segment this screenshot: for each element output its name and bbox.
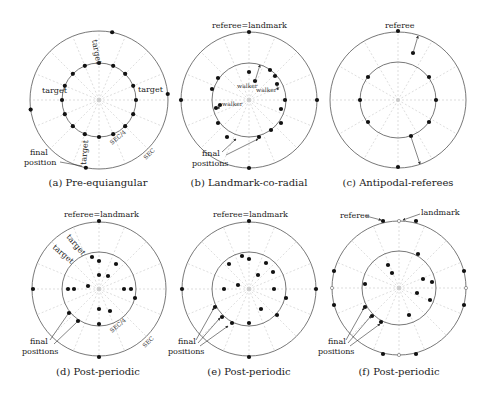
final-pointer-1	[222, 139, 236, 152]
robot-dot	[268, 68, 272, 72]
robot-dot	[390, 271, 394, 275]
final-pointer-2	[54, 322, 77, 344]
robot-dot	[227, 262, 231, 266]
robot-dot	[247, 219, 251, 223]
label-final: final	[328, 337, 346, 346]
robot-dot	[222, 287, 226, 291]
robot-dot	[379, 320, 383, 324]
radial-guides	[330, 32, 466, 168]
robot-dot	[247, 30, 251, 34]
robot-dot	[66, 287, 70, 291]
label-final: final	[30, 148, 48, 157]
radial-guides	[182, 222, 316, 356]
walker-arrow-1	[255, 65, 260, 81]
label-positions: positions	[318, 347, 354, 356]
walker-arrow-2	[277, 86, 278, 90]
robot-dot	[381, 352, 385, 356]
robot-dot	[108, 309, 112, 313]
robot-dot	[247, 70, 251, 74]
robot-dot	[240, 254, 244, 258]
robot-dot	[71, 72, 75, 76]
robot-dot	[71, 124, 75, 128]
robot-dot	[29, 108, 33, 112]
robot-dot	[166, 92, 170, 96]
robot-dot	[414, 219, 418, 223]
robot-dot	[123, 72, 127, 76]
panel-f: referee landmark final positions (f) Pos…	[318, 208, 468, 377]
robot-dot	[256, 273, 260, 277]
referee-arrow-bottom	[411, 137, 420, 164]
label-referee: referee	[385, 21, 415, 30]
robot-dot	[123, 124, 127, 128]
radial-guides	[32, 222, 166, 356]
label-final: final	[30, 337, 48, 346]
robot-dot	[60, 98, 64, 102]
label-final: final	[178, 337, 196, 346]
caption-a: (a) Pre-equiangular	[49, 177, 148, 188]
robot-dot	[230, 321, 234, 325]
robot-dot	[370, 314, 374, 318]
robot-dot	[247, 257, 251, 261]
robot-dot	[275, 313, 279, 317]
robot-dot	[220, 315, 224, 319]
robot-dot	[247, 321, 251, 325]
robot-dot	[428, 298, 432, 302]
robot-dot	[97, 322, 101, 326]
robot-dot	[122, 287, 126, 291]
landmark-pointer	[403, 214, 420, 220]
robot-dot	[284, 296, 288, 300]
robot-dot	[97, 259, 101, 263]
robot-dot	[133, 296, 137, 300]
robot-dot	[332, 303, 336, 307]
caption-f: (f) Post-periodic	[358, 366, 439, 377]
panel-b: referee=landmark walker walker walker fi…	[179, 21, 319, 188]
robot-dot	[106, 274, 110, 278]
robot-dot	[415, 291, 419, 295]
robot-dot	[427, 120, 431, 124]
referee-arrow-top	[413, 36, 418, 53]
final-pointer-1	[50, 314, 68, 340]
robot-dot	[111, 64, 115, 68]
robot-dot	[462, 303, 466, 307]
robot-dot	[272, 287, 276, 291]
label-walker-1: walker	[237, 82, 258, 89]
label-referee-landmark: referee=landmark	[212, 21, 287, 30]
panel-e: referee=landmark final positions (e) Pos…	[168, 210, 318, 377]
robot-dot	[84, 166, 88, 170]
label-walker-2: walker	[256, 86, 277, 93]
label-landmark: landmark	[421, 208, 460, 217]
robot-dot	[462, 269, 466, 273]
robot-dot	[259, 307, 263, 311]
robot-dot	[279, 107, 283, 111]
robot-dot	[97, 219, 101, 223]
robot-dot	[283, 98, 287, 102]
caption-d: (d) Post-periodic	[56, 366, 140, 377]
label-positions: positions	[22, 347, 58, 356]
robot-dot	[225, 135, 229, 139]
radial-guides	[332, 221, 466, 355]
robot-dot	[416, 252, 420, 256]
robot-dot	[97, 135, 101, 139]
robot-dot	[83, 64, 87, 68]
figure-canvas: target target target target final positi…	[0, 0, 484, 398]
label-referee-landmark: referee=landmark	[64, 210, 139, 219]
label-positions: positions	[192, 159, 228, 168]
label-sec: SEC	[141, 334, 155, 348]
robot-dot	[216, 121, 220, 125]
robot-dot	[363, 282, 367, 286]
label-sec: SEC	[142, 146, 156, 160]
robot-dot	[269, 128, 273, 132]
label-target-left: target	[42, 86, 68, 95]
label-target-bottom: target	[79, 139, 90, 165]
caption-e: (e) Post-periodic	[207, 366, 291, 377]
robot-dot	[129, 287, 133, 291]
robot-dot	[214, 106, 218, 110]
label-position: position	[24, 158, 56, 167]
robot-dot	[427, 75, 431, 79]
robot-dot	[31, 287, 35, 291]
robot-dot	[131, 112, 135, 116]
robot-dot	[179, 98, 183, 102]
label-positions: positions	[168, 347, 204, 356]
robot-dot	[90, 255, 94, 259]
robot-dot	[83, 132, 87, 136]
